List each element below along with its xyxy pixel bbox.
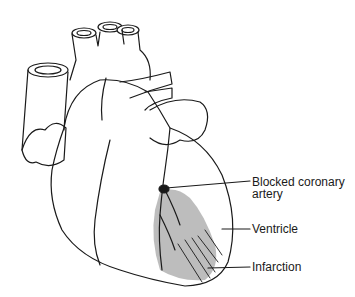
left-atrium <box>150 100 208 145</box>
label-line-2: artery <box>252 188 345 200</box>
label-infarction: Infarction <box>252 261 301 273</box>
label-blocked-coronary-artery: Blocked coronary artery <box>252 176 345 200</box>
right-coronary-artery <box>94 140 110 265</box>
right-atrium <box>22 123 66 165</box>
label-ventricle: Ventricle <box>252 223 298 235</box>
heart-illustration <box>0 0 355 297</box>
infarction-region <box>153 190 216 281</box>
leader-blocked <box>166 181 250 188</box>
aortic-branches <box>70 22 150 80</box>
blockage-marker <box>159 185 169 193</box>
